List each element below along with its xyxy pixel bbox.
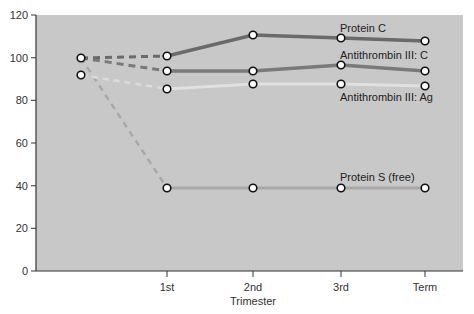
marker-atiii-c — [337, 61, 345, 69]
marker-baseline-92 — [77, 71, 85, 79]
marker-atiii-ag — [249, 80, 257, 88]
line-chart: 0 20 40 60 80 100 120 1st 2nd 3rd Term T… — [0, 0, 474, 314]
marker-protein-s — [421, 184, 429, 192]
y-tick-label: 40 — [16, 180, 28, 192]
x-tick-label: 3rd — [333, 281, 349, 293]
marker-atiii-ag — [337, 80, 345, 88]
marker-protein-c — [249, 31, 257, 39]
y-tick-label: 20 — [16, 222, 28, 234]
label-protein-c: Protein C — [340, 22, 386, 34]
marker-protein-c — [163, 52, 171, 60]
marker-atiii-c — [249, 67, 257, 75]
x-tick-label: Term — [413, 281, 437, 293]
label-atiii-c: Antithrombin III: C — [340, 49, 428, 61]
marker-atiii-ag — [421, 82, 429, 90]
marker-atiii-c — [163, 67, 171, 75]
x-axis-title: Trimester — [230, 295, 276, 307]
y-ticks: 0 20 40 60 80 100 120 — [10, 9, 36, 277]
marker-protein-s — [163, 184, 171, 192]
marker-protein-c — [421, 37, 429, 45]
y-tick-label: 80 — [16, 94, 28, 106]
x-ticks: 1st 2nd 3rd Term Trimester — [160, 271, 438, 307]
x-tick-label: 1st — [160, 281, 175, 293]
label-protein-s: Protein S (free) — [340, 171, 415, 183]
label-atiii-ag: Antithrombin III: Ag — [340, 91, 433, 103]
marker-protein-c — [337, 34, 345, 42]
marker-atiii-c — [421, 67, 429, 75]
marker-atiii-ag — [163, 85, 171, 93]
marker-protein-s — [249, 184, 257, 192]
x-tick-label: 2nd — [244, 281, 262, 293]
y-tick-label: 100 — [10, 52, 28, 64]
marker-baseline-100 — [77, 54, 85, 62]
y-tick-label: 60 — [16, 137, 28, 149]
y-tick-label: 120 — [10, 9, 28, 21]
marker-protein-s — [337, 184, 345, 192]
y-tick-label: 0 — [22, 265, 28, 277]
